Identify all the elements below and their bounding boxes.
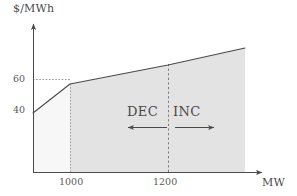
x-tick-label-1200: 1200	[153, 176, 177, 187]
dec-region-label: DEC	[127, 104, 158, 119]
y-axis-title: $/MWh	[13, 2, 54, 15]
x-tick-label-1000: 1000	[59, 176, 83, 187]
inc-region-label: INC	[173, 104, 201, 119]
x-axis-title: MW	[262, 176, 285, 189]
plot-area	[0, 0, 297, 196]
y-tick-label-60: 60	[13, 73, 25, 84]
supply-curve-figure: $/MWh MW 60 40 1000 1200 DEC INC	[0, 0, 297, 196]
y-tick-label-40: 40	[13, 104, 25, 115]
shaded-region-below-1000	[33, 84, 70, 172]
